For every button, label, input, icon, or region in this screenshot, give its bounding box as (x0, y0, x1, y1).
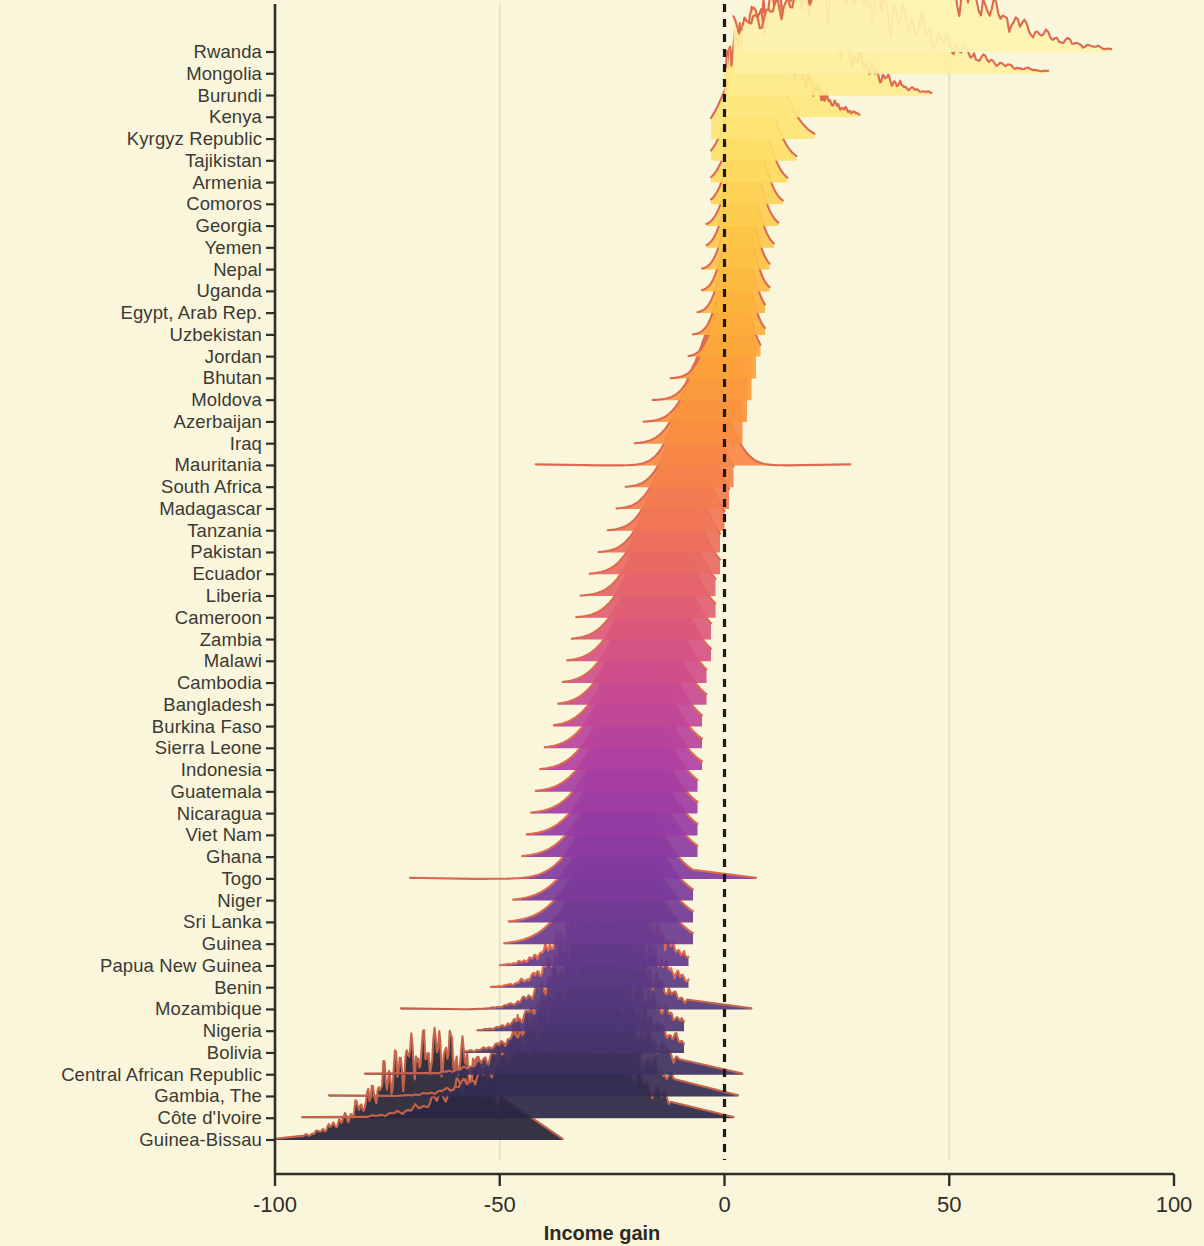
y-axis-label-bolivia: Bolivia (207, 1044, 262, 1063)
y-axis-label-sri-lanka: Sri Lanka (183, 913, 262, 932)
x-axis-title: Income gain (0, 1222, 1204, 1245)
y-axis-label-azerbaijan: Azerbaijan (174, 413, 262, 432)
y-axis-label-cameroon: Cameroon (175, 609, 262, 628)
y-axis-label-iraq: Iraq (230, 435, 262, 454)
y-axis-label-togo: Togo (221, 870, 262, 889)
y-axis-label-sierra-leone: Sierra Leone (155, 739, 262, 758)
y-axis-label-moldova: Moldova (191, 391, 262, 410)
y-axis-label-georgia: Georgia (195, 217, 262, 236)
y-axis-label-niger: Niger (217, 892, 262, 911)
y-axis-label-tanzania: Tanzania (187, 522, 262, 541)
y-axis-label-bhutan: Bhutan (203, 369, 262, 388)
y-axis-label-benin: Benin (214, 979, 262, 998)
y-axis-label-central-african-republic: Central African Republic (61, 1066, 262, 1085)
x-tick-label: -50 (440, 1192, 560, 1218)
y-axis-label-nigeria: Nigeria (203, 1022, 262, 1041)
y-axis-label-nepal: Nepal (213, 261, 262, 280)
y-axis-label-jordan: Jordan (205, 348, 262, 367)
y-axis-label-viet-nam: Viet Nam (185, 826, 262, 845)
y-axis-label-burundi: Burundi (198, 87, 262, 106)
y-axis-label-rwanda: Rwanda (194, 43, 262, 62)
y-axis-label-guinea: Guinea (202, 935, 262, 954)
y-axis-label-malawi: Malawi (204, 652, 262, 671)
y-axis-label-uganda: Uganda (197, 282, 262, 301)
y-axis-label-mauritania: Mauritania (175, 456, 262, 475)
y-axis-label-mongolia: Mongolia (186, 65, 262, 84)
ridgeline-chart: RwandaMongoliaBurundiKenyaKyrgyz Republi… (0, 0, 1204, 1246)
y-axis-ticks (266, 52, 275, 1140)
y-axis-label-kyrgyz-republic: Kyrgyz Republic (127, 130, 262, 149)
y-axis-label-indonesia: Indonesia (181, 761, 262, 780)
y-axis-label-south-africa: South Africa (161, 478, 262, 497)
x-tick-label: 0 (665, 1192, 785, 1218)
y-axis-label-uzbekistan: Uzbekistan (169, 326, 262, 345)
y-axis-label-guinea-bissau: Guinea-Bissau (139, 1131, 262, 1150)
y-axis-label-pakistan: Pakistan (190, 543, 262, 562)
y-axis-label-nicaragua: Nicaragua (177, 805, 262, 824)
x-tick-label: -100 (215, 1192, 335, 1218)
y-axis-label-guatemala: Guatemala (171, 783, 262, 802)
y-axis-label-liberia: Liberia (206, 587, 262, 606)
y-axis-label-kenya: Kenya (209, 108, 262, 127)
y-axis-label-yemen: Yemen (205, 239, 262, 258)
y-axis-label-gambia-the: Gambia, The (154, 1087, 262, 1106)
x-axis-ticks (275, 1174, 1174, 1186)
y-axis-label-ecuador: Ecuador (192, 565, 262, 584)
y-axis-label-bangladesh: Bangladesh (163, 696, 262, 715)
y-axis-label-tajikistan: Tajikistan (185, 152, 262, 171)
x-tick-label: 100 (1114, 1192, 1204, 1218)
y-axis-label-burkina-faso: Burkina Faso (152, 718, 262, 737)
x-tick-label: 50 (889, 1192, 1009, 1218)
ridge-area (743, 0, 1112, 52)
y-axis-label-papua-new-guinea: Papua New Guinea (100, 957, 262, 976)
y-axis-label-ghana: Ghana (206, 848, 262, 867)
y-axis-label-madagascar: Madagascar (159, 500, 262, 519)
y-axis-label-c-te-d-ivoire: Côte d'Ivoire (157, 1109, 262, 1128)
y-axis-label-egypt-arab-rep: Egypt, Arab Rep. (121, 304, 262, 323)
y-axis-label-zambia: Zambia (200, 631, 262, 650)
y-axis-label-mozambique: Mozambique (155, 1000, 262, 1019)
ridge-series-group (275, 0, 1111, 1140)
y-axis-label-cambodia: Cambodia (177, 674, 262, 693)
y-axis-label-armenia: Armenia (192, 174, 262, 193)
y-axis-label-comoros: Comoros (186, 195, 262, 214)
